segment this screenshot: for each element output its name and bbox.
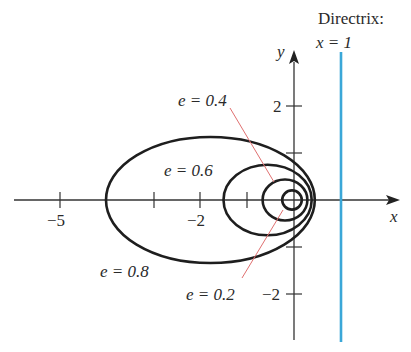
y-tick-label-2: 2 [273, 97, 282, 116]
y-axis-label: y [275, 42, 285, 61]
leader-e-0.4 [230, 108, 274, 182]
x-axis-label: x [389, 207, 398, 226]
x-tick-label-neg5: −5 [47, 211, 65, 230]
label-e-0.4: e = 0.4 [178, 91, 227, 110]
label-e-0.8: e = 0.8 [100, 262, 149, 281]
directrix-equation: x = 1 [315, 33, 352, 52]
label-e-0.6: e = 0.6 [164, 161, 213, 180]
conic-diagram: −5 −2 2 −2 x y Directrix: x = 1 e = 0.4 … [0, 0, 411, 352]
y-tick-label-neg2: −2 [262, 285, 280, 304]
directrix-label: Directrix: [318, 9, 384, 28]
label-e-0.2: e = 0.2 [186, 285, 235, 304]
x-tick-label-neg2: −2 [187, 211, 205, 230]
y-axis-arrow-icon [289, 50, 299, 64]
leader-e-0.2 [242, 210, 283, 278]
